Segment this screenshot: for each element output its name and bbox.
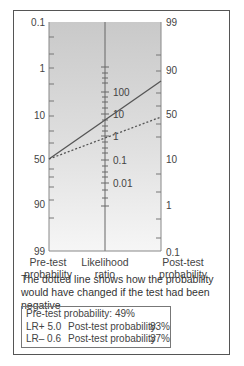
svg-text:100: 100 [113, 87, 130, 98]
svg-text:10: 10 [113, 109, 125, 120]
svg-text:50: 50 [166, 109, 178, 120]
left-tick-labels: 0.1 1 10 50 90 99 [31, 17, 45, 257]
svg-text:10: 10 [34, 110, 46, 121]
svg-text:10: 10 [166, 154, 178, 165]
svg-text:0.1: 0.1 [31, 17, 45, 28]
svg-text:1: 1 [113, 131, 119, 142]
posttest-label: Post-test probability [68, 321, 150, 334]
svg-text:99: 99 [166, 17, 178, 28]
lr-negative-row: LR– 0.6 Post-test probability 37% [26, 333, 170, 346]
svg-text:90: 90 [166, 65, 178, 76]
svg-text:90: 90 [34, 199, 46, 210]
posttest-positive-value: 83% [150, 321, 170, 334]
svg-text:1: 1 [39, 63, 45, 74]
svg-text:1: 1 [166, 200, 172, 211]
lr-positive-row: LR+ 5.0 Post-test probability 83% [26, 321, 170, 334]
lr-positive-value: LR+ 5.0 [26, 321, 68, 334]
pretest-probability: Pre-test probability: 49% [26, 308, 170, 321]
results-box: Pre-test probability: 49% LR+ 5.0 Post-t… [21, 306, 171, 348]
right-tick-labels: 99 90 50 10 1 0.1 [166, 17, 180, 258]
posttest-label: Post-test probability [68, 333, 150, 346]
posttest-negative-value: 37% [150, 333, 170, 346]
lr-negative-value: LR– 0.6 [26, 333, 68, 346]
svg-text:0.01: 0.01 [113, 178, 133, 189]
svg-text:50: 50 [34, 154, 46, 165]
svg-text:0.1: 0.1 [113, 155, 127, 166]
